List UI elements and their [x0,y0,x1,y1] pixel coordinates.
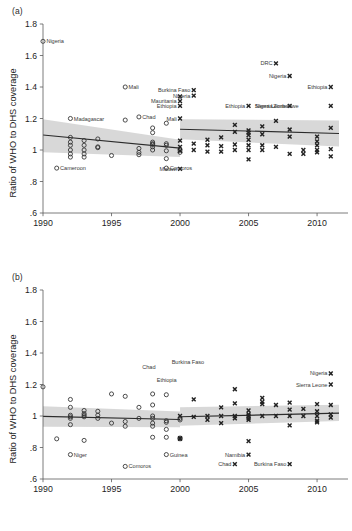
data-point-x [260,396,264,400]
data-point-x [192,398,196,402]
data-point-x [315,150,319,154]
point-annotation: Nigeria [310,370,327,376]
y-tick-label: .8 [30,443,37,453]
data-point-x [274,61,278,65]
data-point-x [329,147,333,151]
data-point-x [288,401,292,405]
point-annotation: Ethiopia [157,103,177,109]
x-tick-label: 2000 [170,484,190,494]
point-annotation: Comoros [129,463,151,469]
point-annotation: Nigeria [173,93,190,99]
point-annotation: DRC [261,60,273,66]
y-tick-label: 1.2 [25,114,37,124]
data-point-x [247,143,251,147]
data-point-x [192,148,196,152]
data-point-x [219,144,223,148]
point-annotation: Zimbabwe [273,103,298,109]
data-point-x [247,148,251,152]
point-annotation: Chad [218,461,231,467]
y-tick-label: 1 [32,411,37,421]
point-annotation: Nigeria [46,38,63,44]
data-point-circle [55,437,59,441]
panel-a-plot-area: 1.81.61.41.21.8.619901995200020052010Nig… [43,24,339,213]
data-point-circle [123,85,127,89]
x-tick-label: 1995 [102,218,122,228]
point-annotation: Ethiopia [157,377,177,383]
data-point-circle [151,126,155,130]
data-point-circle [68,397,72,401]
y-tick-label: 1.2 [25,380,37,390]
data-point-x [301,148,305,152]
data-point-circle [68,453,72,457]
panel-a-y-axis-label: Ratio of WHO to DHS coverage [8,33,18,233]
data-point-x [247,104,251,108]
data-point-circle [109,392,113,396]
data-point-circle [151,435,155,439]
confidence-band-0 [43,119,180,157]
panel-a-tag: (a) [12,6,23,16]
data-point-circle [164,121,168,125]
point-annotation: Mali [167,116,177,122]
data-point-circle [164,435,168,439]
data-point-x [178,99,182,103]
data-point-x [329,104,333,108]
x-tick-label: 2010 [307,218,327,228]
data-point-x [219,150,223,154]
data-point-circle [137,405,141,409]
y-tick-label: 1.8 [25,285,37,295]
data-point-x [301,152,305,156]
data-point-x [206,143,210,147]
series-1 [178,61,333,170]
x-tick-label: 2005 [239,218,259,228]
y-tick-label: 1.6 [25,317,37,327]
data-point-circle [137,115,141,119]
point-annotation: Guinea [170,452,188,458]
point-annotation: Niger [74,452,87,458]
data-point-x [247,439,251,443]
data-point-x [288,424,292,428]
data-point-x [192,142,196,146]
point-annotation: Cameroon [60,165,86,171]
data-point-circle [55,166,59,170]
point-annotation: Ethiopia [225,103,245,109]
data-point-circle [164,393,168,397]
data-point-circle [82,438,86,442]
x-tick-label: 1995 [102,484,122,494]
data-point-x [260,143,264,147]
y-tick-label: 1.6 [25,51,37,61]
data-point-x [233,143,237,147]
data-point-x [329,372,333,376]
data-point-x [274,145,278,149]
x-tick-label: 2005 [239,484,259,494]
data-point-x [178,104,182,108]
point-annotation: Ethiopia [308,84,328,90]
y-tick-label: .8 [30,177,37,187]
data-point-x [288,74,292,78]
plot-canvas [43,290,352,489]
panel-b-plot-area: 1.81.61.41.21.8.619901995200020052010Cha… [43,290,339,479]
y-tick-label: 1.8 [25,19,37,29]
data-point-x [260,148,264,152]
data-point-x [247,158,251,162]
data-point-circle [68,116,72,120]
x-tick-label: 2000 [170,218,190,228]
y-tick-label: .6 [30,208,37,218]
data-point-x [329,154,333,158]
data-point-x [233,462,237,466]
panel-a: (a) Ratio of WHO to DHS coverage 1.81.61… [0,0,347,265]
point-annotation: Malawi [160,166,177,172]
data-point-x [329,383,333,387]
point-annotation: Madagascar [74,116,104,122]
point-annotation: Sierra Leone [296,382,327,388]
data-point-x [192,88,196,92]
data-point-x [206,150,210,154]
y-tick-label: 1.4 [25,82,37,92]
data-point-circle [123,118,127,122]
x-tick-label: 1990 [33,218,53,228]
data-point-x [233,402,237,406]
point-annotation: Chad [142,364,155,370]
data-point-x [329,85,333,89]
point-annotation: Burkina Faso [172,359,204,365]
data-point-x [247,453,251,457]
